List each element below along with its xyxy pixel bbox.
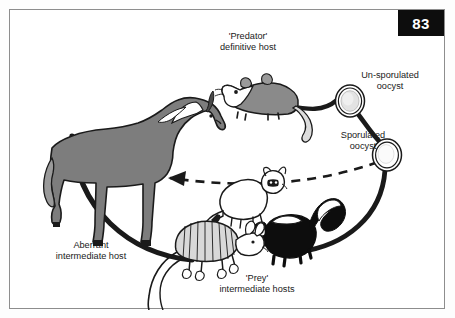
opossum-icon: [215, 74, 312, 142]
cut-off-caption-sliver: [232, 0, 412, 8]
armadillo-icon: [148, 221, 268, 310]
label-prey-intermediate-hosts: 'Prey' intermediate hosts: [192, 273, 322, 295]
page-number-badge: 83: [398, 10, 444, 36]
skunk-icon: [252, 199, 346, 266]
label-aberrant-intermediate-host: Aberrant intermediate host: [26, 240, 156, 262]
figure-page: 'Predator' definitive host Un-sporulated…: [0, 0, 455, 318]
label-sporulated-oocyst: Sporulated oocyst: [315, 130, 411, 152]
label-predator-definitive-host: 'Predator' definitive host: [188, 31, 308, 53]
label-unsporulated-oocyst: Un-sporulated oocyst: [335, 70, 445, 92]
life-cycle-diagram: [10, 10, 446, 310]
figure-frame: 'Predator' definitive host Un-sporulated…: [9, 9, 445, 309]
